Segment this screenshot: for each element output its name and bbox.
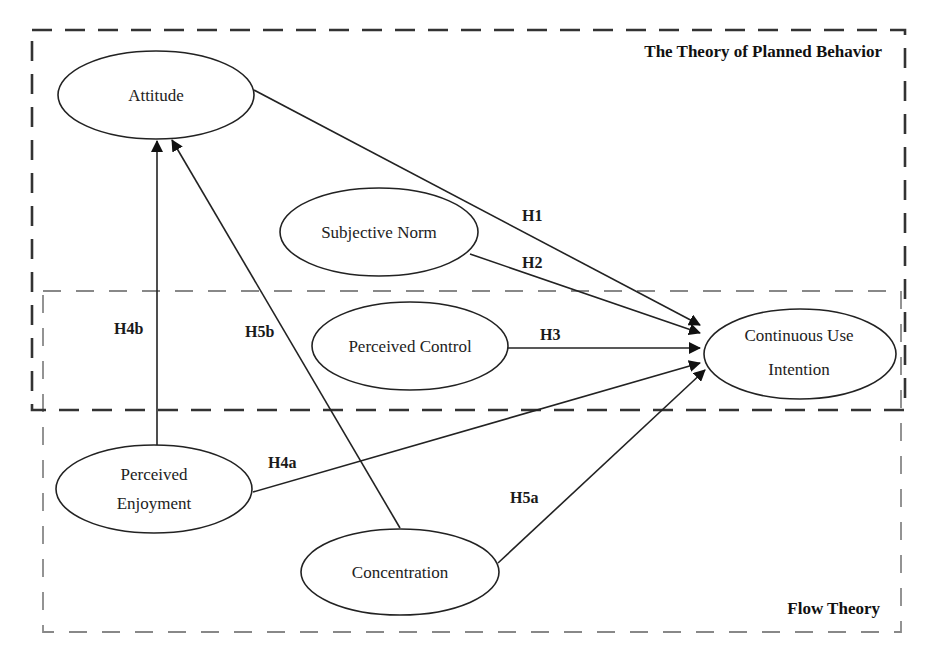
tpb-group-label: The Theory of Planned Behavior <box>644 42 882 61</box>
research-model-diagram: The Theory of Planned Behavior Flow Theo… <box>0 0 929 654</box>
node-concentration: Concentration <box>301 529 499 615</box>
node-subjective-norm: Subjective Norm <box>280 188 478 276</box>
node-perceived-enjoyment-line1: Perceived <box>120 465 188 484</box>
edge-h2 <box>470 254 700 333</box>
node-concentration-label: Concentration <box>352 563 449 582</box>
edge-label-h5b: H5b <box>245 323 274 340</box>
node-perceived-control-label: Perceived Control <box>348 337 471 356</box>
edge-label-h4b: H4b <box>114 320 143 337</box>
node-perceived-enjoyment-line2: Enjoyment <box>117 494 192 513</box>
edge-label-h1: H1 <box>522 207 542 224</box>
edge-label-h5a: H5a <box>510 489 538 506</box>
node-attitude-label: Attitude <box>128 86 184 105</box>
node-continuous-use-intention-line2: Intention <box>768 360 830 379</box>
edge-h4a <box>253 363 700 492</box>
node-perceived-enjoyment: Perceived Enjoyment <box>56 445 252 533</box>
node-perceived-control: Perceived Control <box>312 302 508 390</box>
edge-label-h4a: H4a <box>268 454 296 471</box>
node-continuous-use-intention-line1: Continuous Use <box>744 326 853 345</box>
edge-label-h2: H2 <box>522 254 542 271</box>
edge-h5a <box>498 370 705 563</box>
node-continuous-use-intention: Continuous Use Intention <box>704 309 896 399</box>
flow-group-label: Flow Theory <box>787 599 880 618</box>
node-subjective-norm-label: Subjective Norm <box>321 223 437 242</box>
edge-label-h3: H3 <box>540 326 560 343</box>
node-attitude: Attitude <box>58 51 254 139</box>
